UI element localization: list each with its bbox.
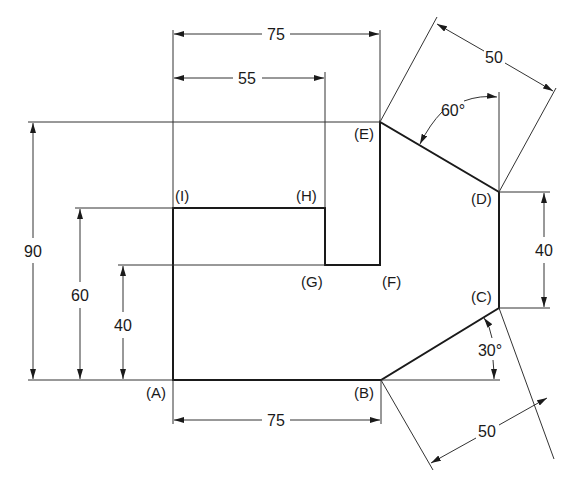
technical-drawing: 75 55 90 60 40 75 40 50 50 60° 30° (A) (… bbox=[0, 0, 575, 492]
vertex-label-i: (I) bbox=[175, 187, 189, 204]
dim-top-55: 55 bbox=[238, 70, 256, 87]
part-outline bbox=[173, 122, 499, 380]
vertex-label-h: (H) bbox=[296, 187, 317, 204]
dim-left-40: 40 bbox=[114, 317, 132, 334]
dim-left-90: 90 bbox=[24, 243, 42, 260]
vertex-label-f: (F) bbox=[382, 273, 401, 290]
dim-top-75: 75 bbox=[267, 26, 285, 43]
angle-60: 60° bbox=[441, 102, 465, 119]
dimension-lines bbox=[33, 24, 553, 463]
angle-30: 30° bbox=[478, 342, 502, 359]
dim-bottom-75: 75 bbox=[267, 412, 285, 429]
vertex-label-g: (G) bbox=[301, 273, 323, 290]
dim-lower-right-50: 50 bbox=[478, 423, 496, 440]
vertex-label-a: (A) bbox=[146, 384, 166, 401]
vertex-label-c: (C) bbox=[471, 288, 492, 305]
vertex-label-e: (E) bbox=[354, 125, 374, 142]
vertex-label-b: (B) bbox=[354, 384, 374, 401]
dim-left-60: 60 bbox=[71, 287, 89, 304]
dim-right-40: 40 bbox=[535, 242, 553, 259]
vertex-label-d: (D) bbox=[471, 190, 492, 207]
extension-lines bbox=[28, 17, 556, 470]
dim-upper-right-50: 50 bbox=[485, 49, 503, 66]
